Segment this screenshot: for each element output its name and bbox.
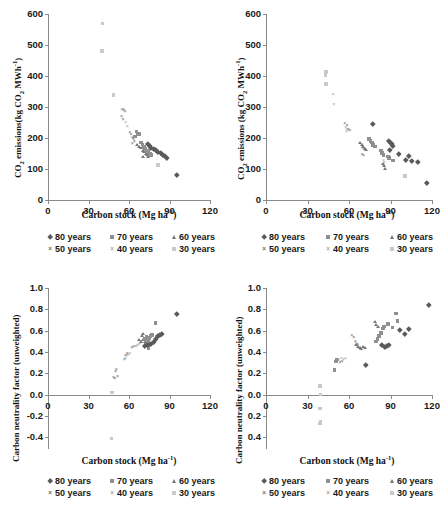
x-tick [129, 396, 130, 399]
legend-item-70-years[interactable]: 70 years [324, 476, 369, 487]
data-point [318, 384, 322, 388]
y-tick [263, 331, 266, 332]
x-tick-label: 90 [375, 205, 407, 216]
data-point [387, 156, 391, 160]
x-tick-label: 90 [154, 400, 186, 411]
data-point [154, 321, 158, 325]
data-point [370, 121, 375, 126]
legend-marker [170, 232, 179, 241]
data-point [406, 153, 411, 158]
legend-label: 50 years [55, 488, 91, 499]
data-point [391, 159, 395, 163]
data-point [324, 74, 328, 78]
legend-item-30-years[interactable]: 30 years [388, 488, 433, 499]
legend-item-40-years[interactable]: ×40 years [108, 488, 153, 499]
legend-row: ×50 years×40 years30 years [46, 488, 222, 500]
legend-item-60-years[interactable]: 60 years [388, 476, 433, 487]
legend-item-60-years[interactable]: 60 years [388, 232, 433, 243]
y-tick-label: 0.6 [228, 325, 261, 336]
data-point [407, 326, 412, 331]
legend-row: 80 years70 years60 years [260, 476, 440, 488]
data-point: × [128, 352, 132, 356]
legend-item-40-years[interactable]: ×40 years [324, 488, 369, 499]
legend-item-30-years[interactable]: 30 years [170, 488, 215, 499]
y-tick-label: 0.2 [228, 367, 261, 378]
y-tick [45, 45, 48, 46]
x-tick-label: 60 [113, 205, 145, 216]
legend-item-30-years[interactable]: 30 years [388, 244, 433, 255]
marker-cross: × [48, 247, 52, 251]
data-point [425, 180, 430, 185]
marker-diamond [47, 478, 53, 484]
x-tick-label: 30 [292, 205, 324, 216]
marker-cross: × [262, 247, 266, 251]
legend-label: 60 years [397, 232, 433, 243]
legend-item-50-years[interactable]: ×50 years [46, 488, 91, 499]
marker-triangle [172, 479, 176, 483]
data-point [112, 93, 116, 97]
data-point: × [131, 142, 135, 146]
data-point [376, 337, 380, 341]
legend-item-30-years[interactable]: 30 years [170, 244, 215, 255]
legend-item-60-years[interactable]: 60 years [170, 476, 215, 487]
legend-row: 80 years70 years60 years [260, 232, 440, 244]
y-tick [45, 437, 48, 438]
legend-marker [388, 476, 397, 485]
data-point [101, 22, 105, 26]
legend-item-80-years[interactable]: 80 years [46, 476, 91, 487]
data-point [364, 362, 369, 367]
y-axis-line [48, 14, 49, 201]
marker-diamond [47, 234, 53, 240]
x-tick-label: 60 [113, 400, 145, 411]
data-point [397, 327, 402, 332]
legend-item-80-years[interactable]: 80 years [260, 232, 305, 243]
data-point [403, 174, 407, 178]
legend-item-70-years[interactable]: 70 years [108, 232, 153, 243]
legend-item-60-years[interactable]: 60 years [170, 232, 215, 243]
marker-triangle [390, 235, 394, 239]
data-point [409, 158, 414, 163]
legend-item-70-years[interactable]: 70 years [108, 476, 153, 487]
data-point: × [126, 125, 130, 129]
y-tick [45, 14, 48, 15]
y-tick-label: 0.4 [228, 346, 261, 357]
y-tick-label: 600 [228, 8, 261, 19]
legend-marker: × [46, 244, 55, 253]
marker-triangle [172, 235, 176, 239]
marker-cross: × [262, 491, 266, 495]
legend-item-50-years[interactable]: ×50 years [260, 244, 305, 255]
data-point [137, 132, 141, 136]
data-point: × [116, 375, 120, 379]
x-tick-label: 60 [333, 400, 365, 411]
legend-item-70-years[interactable]: 70 years [324, 232, 369, 243]
legend-marker [170, 476, 179, 485]
y-tick [263, 416, 266, 417]
y-tick-label: 0.4 [228, 431, 261, 442]
data-point: × [362, 154, 366, 158]
legend-label: 40 years [333, 488, 369, 499]
legend-item-40-years[interactable]: ×40 years [108, 244, 153, 255]
legend-label: 70 years [117, 232, 153, 243]
legend-marker [260, 476, 269, 485]
legend-marker: × [260, 488, 269, 497]
y-tick-label: 0.6 [10, 325, 43, 336]
legend-item-50-years[interactable]: ×50 years [46, 244, 91, 255]
y-tick [45, 76, 48, 77]
data-point [324, 82, 328, 86]
data-point [391, 143, 396, 148]
x-tick [391, 201, 392, 204]
legend-item-80-years[interactable]: 80 years [46, 232, 91, 243]
legend-label: 80 years [269, 232, 305, 243]
legend-top-right: 80 years70 years60 years×50 years×40 yea… [260, 232, 440, 256]
legend-marker [388, 244, 397, 253]
legend-marker [46, 232, 55, 241]
marker-cross: × [110, 247, 114, 251]
x-tick [432, 201, 433, 204]
marker-diamond [261, 234, 267, 240]
legend-item-80-years[interactable]: 80 years [260, 476, 305, 487]
y-tick [45, 169, 48, 170]
y-tick [45, 107, 48, 108]
legend-item-40-years[interactable]: ×40 years [324, 244, 369, 255]
legend-item-50-years[interactable]: ×50 years [260, 488, 305, 499]
data-point [402, 331, 407, 336]
